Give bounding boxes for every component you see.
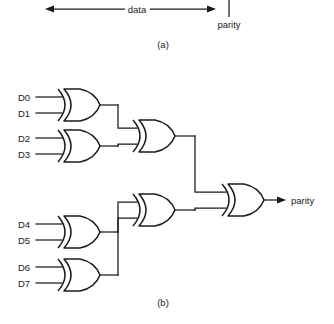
data-label: data <box>128 4 147 15</box>
panel-b-parity-output-label: parity <box>291 195 314 206</box>
data-arrow-right-head <box>207 6 216 13</box>
xor-gate-upper-merge <box>133 120 195 152</box>
data-arrow-left-head <box>45 6 54 13</box>
panel-a-parity-label: parity <box>217 19 240 30</box>
input-label-d6: D6 <box>18 262 30 273</box>
wire-xor4-to-merge-lower <box>118 218 137 275</box>
input-label-d1: D1 <box>18 108 30 119</box>
parity-output-arrowhead <box>277 197 286 204</box>
xor-gate-d0-d1 <box>58 89 118 121</box>
panel-b-caption: (b) <box>157 297 169 308</box>
panel-a: data parity (a) <box>45 0 241 50</box>
wire-xor2-to-merge-upper <box>118 144 137 146</box>
xor-gate-d2-d3 <box>58 130 118 162</box>
xor-gate-lower-merge <box>133 194 195 226</box>
input-label-d0: D0 <box>18 92 30 103</box>
panel-a-caption: (a) <box>157 39 169 50</box>
input-label-d4: D4 <box>18 219 30 230</box>
xor-gate-d6-d7 <box>58 259 118 291</box>
parity-generator-figure: data parity (a) D0 D1 D2 D3 D4 D5 D6 D7 <box>0 0 334 324</box>
input-label-d3: D3 <box>18 149 30 160</box>
input-label-d7: D7 <box>18 278 30 289</box>
input-label-d2: D2 <box>18 133 30 144</box>
panel-b: D0 D1 D2 D3 D4 D5 D6 D7 <box>18 89 314 308</box>
wire-xor1-to-merge-upper <box>118 105 137 128</box>
xor-gate-final <box>222 184 264 216</box>
wire-xor3-to-merge-lower <box>118 202 137 232</box>
input-label-d5: D5 <box>18 235 30 246</box>
wire-merge-upper-to-final <box>195 136 226 192</box>
wire-merge-lower-to-final <box>195 208 226 210</box>
xor-gate-d4-d5 <box>58 216 118 248</box>
